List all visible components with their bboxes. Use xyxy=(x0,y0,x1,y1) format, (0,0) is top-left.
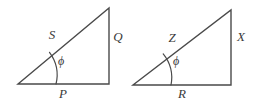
right-hypotenuse-label: Z xyxy=(168,30,176,45)
left-triangle-outline xyxy=(18,8,109,84)
left-vertical-side-label: Q xyxy=(113,29,123,44)
right-angle-label: ϕ xyxy=(173,54,179,68)
right-triangle-group: Z X R ϕ xyxy=(133,10,246,101)
left-hypotenuse-label: S xyxy=(49,27,56,42)
right-base-side-label: R xyxy=(177,86,186,101)
geometry-figure: S Q P ϕ Z X R ϕ xyxy=(0,0,257,102)
left-triangle-group: S Q P ϕ xyxy=(18,8,123,101)
right-triangle-outline xyxy=(133,10,231,85)
figure-canvas: S Q P ϕ Z X R ϕ xyxy=(0,0,257,102)
left-angle-label: ϕ xyxy=(58,54,64,68)
left-base-side-label: P xyxy=(58,86,67,101)
right-vertical-side-label: X xyxy=(236,29,246,44)
